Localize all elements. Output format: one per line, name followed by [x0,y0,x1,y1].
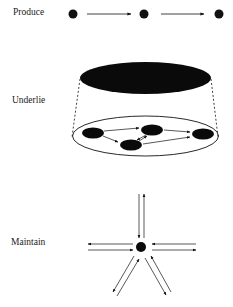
maintain-arrow-lowerleft-in [117,259,139,296]
substrate-node-c [120,140,142,151]
projection-line-right [211,79,218,137]
substrate-arrow-b-d [164,130,190,132]
substrate-node-a [82,128,104,139]
maintain-center-node [136,242,146,252]
produce-node-1 [69,10,78,19]
maintain-panel [88,194,196,296]
substrate-arrow-a-b [104,128,139,131]
maintain-arrow-lowerleft-out [113,256,134,292]
substrate-node-d [192,129,214,140]
substrate-arrow-c-d [143,137,190,144]
surface-ellipse [80,62,211,94]
substrate-node-b [141,125,163,136]
substrate-arrow-a-c [103,136,118,142]
produce-node-2 [140,10,149,19]
produce-node-3 [215,10,224,19]
projection-line-left [72,79,80,137]
underlie-panel [72,62,219,156]
diagram-canvas [0,0,233,307]
produce-panel [69,10,224,19]
